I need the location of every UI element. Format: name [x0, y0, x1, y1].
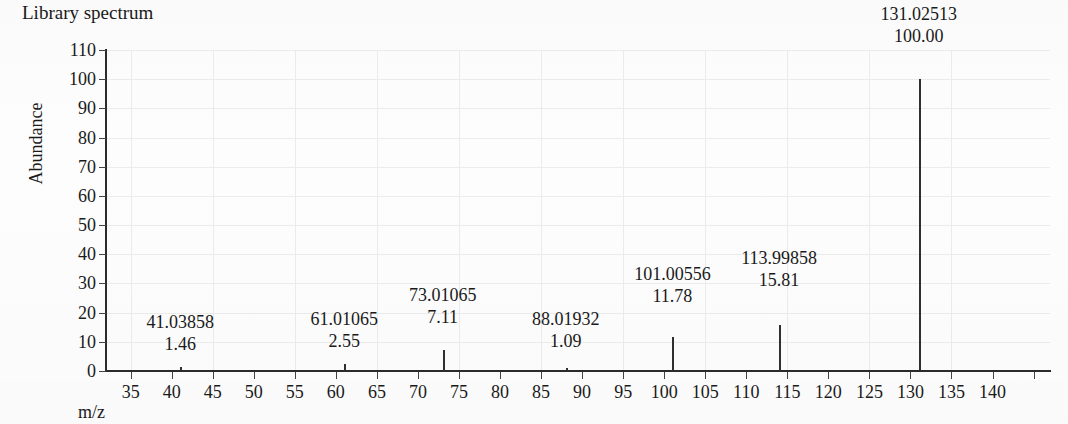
x-axis-title: m/z	[78, 402, 105, 422]
peak-stem	[919, 79, 921, 371]
x-axis-tick-mark	[910, 372, 911, 379]
x-axis-tick-mark	[582, 372, 583, 379]
x-axis-tick-label: 65	[355, 382, 399, 402]
x-axis-tick-mark	[500, 372, 501, 379]
peak-mz-label: 131.02513	[849, 3, 989, 25]
peak-stem	[443, 350, 445, 371]
peak-mz-label: 88.01932	[496, 308, 636, 330]
gridline-horizontal	[106, 79, 1050, 80]
y-axis-tick-mark	[99, 342, 106, 343]
y-axis-tick-label: 60	[38, 187, 96, 205]
gridline-horizontal	[106, 254, 1050, 255]
x-axis-tick-label: 130	[888, 382, 932, 402]
y-axis-tick-mark	[99, 50, 106, 51]
peak-annotation: 88.019321.09	[496, 308, 636, 352]
gridline-horizontal	[106, 167, 1050, 168]
y-axis-tick-mark	[99, 108, 106, 109]
gridline-horizontal	[106, 225, 1050, 226]
x-axis-tick-mark	[623, 372, 624, 379]
y-axis-tick-mark	[99, 225, 106, 226]
y-axis-tick-mark	[99, 167, 106, 168]
x-axis-tick-label: 120	[806, 382, 850, 402]
gridline-horizontal	[106, 196, 1050, 197]
peak-stem	[344, 364, 346, 371]
x-axis-tick-mark	[418, 372, 419, 379]
peak-stem	[672, 337, 674, 371]
peak-mz-label: 73.01065	[373, 284, 513, 306]
peak-annotation: 131.02513100.00	[849, 3, 989, 47]
x-axis-tick-mark	[1034, 372, 1035, 379]
gridline-horizontal	[106, 50, 1050, 51]
x-axis-tick-label: 60	[314, 382, 358, 402]
peak-mz-label: 113.99858	[709, 247, 849, 269]
peak-stem	[566, 368, 568, 371]
x-axis-tick-mark	[746, 372, 747, 379]
peak-annotation: 113.9985815.81	[709, 247, 849, 291]
y-axis-tick-label: 40	[38, 245, 96, 263]
mass-spectrum-figure: Library spectrum Abundance 0102030405060…	[0, 0, 1068, 424]
y-axis-line	[105, 49, 107, 372]
x-axis-tick-label: 90	[560, 382, 604, 402]
peak-annotation: 41.038581.46	[110, 311, 250, 355]
y-axis-tick-label: 20	[38, 304, 96, 322]
gridline-horizontal	[106, 138, 1050, 139]
peak-intensity-label: 1.46	[110, 333, 250, 355]
x-axis-tick-label: 80	[478, 382, 522, 402]
gridline-vertical	[705, 50, 706, 371]
peak-intensity-label: 1.09	[496, 330, 636, 352]
x-axis-tick-mark	[131, 372, 132, 379]
x-axis-tick-mark	[254, 372, 255, 379]
peak-intensity-label: 7.11	[373, 306, 513, 328]
peak-intensity-label: 2.55	[274, 330, 414, 352]
x-axis-tick-mark	[993, 372, 994, 379]
gridline-vertical	[951, 50, 952, 371]
x-axis-tick-label: 105	[683, 382, 727, 402]
y-axis-tick-mark	[99, 313, 106, 314]
peak-stem	[180, 367, 182, 371]
x-axis-tick-label: 45	[191, 382, 235, 402]
y-axis-tick-mark	[99, 138, 106, 139]
y-axis-tick-label: 10	[38, 333, 96, 351]
y-axis-tick-label: 90	[38, 99, 96, 117]
gridline-horizontal	[106, 108, 1050, 109]
x-axis-tick-label: 95	[601, 382, 645, 402]
x-axis-tick-mark	[664, 372, 665, 379]
gridline-vertical	[869, 50, 870, 371]
peak-intensity-label: 15.81	[709, 269, 849, 291]
x-axis-tick-mark	[459, 372, 460, 379]
peak-annotation: 73.010657.11	[373, 284, 513, 328]
y-axis-tick-mark	[99, 196, 106, 197]
y-axis-tick-label: 100	[38, 70, 96, 88]
y-axis-tick-label: 80	[38, 129, 96, 147]
gridline-vertical	[787, 50, 788, 371]
y-axis-tick-mark	[99, 283, 106, 284]
gridline-horizontal	[106, 283, 1050, 284]
x-axis-tick-label: 70	[396, 382, 440, 402]
y-axis-tick-label: 70	[38, 158, 96, 176]
peak-stem	[779, 325, 781, 371]
x-axis-tick-mark	[705, 372, 706, 379]
x-axis-tick-mark	[295, 372, 296, 379]
x-axis-tick-label: 75	[437, 382, 481, 402]
y-axis-tick-label: 30	[38, 274, 96, 292]
x-axis-tick-label: 140	[971, 382, 1015, 402]
x-axis-tick-label: 110	[724, 382, 768, 402]
x-axis-tick-label: 55	[273, 382, 317, 402]
y-axis-tick-mark	[99, 79, 106, 80]
x-axis-tick-mark	[541, 372, 542, 379]
x-axis-tick-label: 40	[150, 382, 194, 402]
x-axis-tick-label: 50	[232, 382, 276, 402]
y-axis-tick-label: 50	[38, 216, 96, 234]
x-axis-tick-label: 100	[642, 382, 686, 402]
x-axis-tick-mark	[172, 372, 173, 379]
x-axis-tick-mark	[787, 372, 788, 379]
x-axis-tick-mark	[336, 372, 337, 379]
x-axis-tick-mark	[869, 372, 870, 379]
y-axis-tick-mark	[99, 371, 106, 372]
peak-intensity-label: 100.00	[849, 25, 989, 47]
x-axis-tick-label: 115	[765, 382, 809, 402]
x-axis-tick-label: 85	[519, 382, 563, 402]
x-axis-tick-label: 35	[109, 382, 153, 402]
peak-mz-label: 41.03858	[110, 311, 250, 333]
x-axis-tick-mark	[213, 372, 214, 379]
